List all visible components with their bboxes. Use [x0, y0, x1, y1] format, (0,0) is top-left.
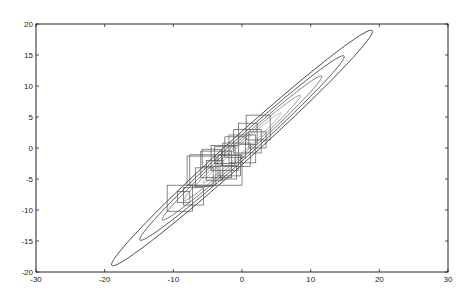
overlay-box: [195, 168, 213, 187]
contour-lines: [112, 30, 373, 266]
x-tick-label: 10: [306, 275, 315, 284]
y-tick-label: 0: [29, 144, 34, 153]
y-tick-label: 15: [24, 51, 33, 60]
rectangle-overlays: [167, 115, 270, 211]
x-tick-label: 20: [375, 275, 384, 284]
y-tick-label: -10: [21, 206, 33, 215]
overlay-box: [202, 149, 221, 166]
y-axis-ticks: -20-15-10-505101520: [21, 20, 448, 277]
plot-frame: [36, 24, 448, 272]
contour-3: [162, 76, 322, 220]
x-axis-ticks: -30-20-100102030: [30, 24, 453, 284]
contour-1: [112, 30, 373, 266]
x-tick-label: -20: [99, 275, 111, 284]
x-tick-label: -10: [168, 275, 180, 284]
x-tick-label: 30: [444, 275, 453, 284]
y-tick-label: -5: [26, 175, 34, 184]
y-tick-label: 10: [24, 82, 33, 91]
y-tick-label: -15: [21, 237, 33, 246]
y-tick-label: 20: [24, 20, 33, 29]
y-tick-label: -20: [21, 268, 33, 277]
contour-2: [140, 56, 344, 241]
x-tick-label: 0: [240, 275, 245, 284]
y-tick-label: 5: [29, 113, 34, 122]
contour-plot: -30-20-100102030 -20-15-10-505101520: [0, 0, 471, 299]
